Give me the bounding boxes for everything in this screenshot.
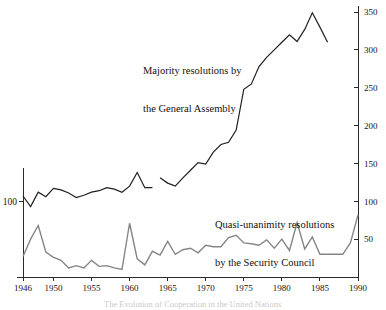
- x-tick-label: 1950: [44, 283, 63, 293]
- x-tick-label: 1970: [197, 283, 216, 293]
- x-tick-label: 1990: [349, 283, 368, 293]
- annotation-majority-line2: the General Assembly: [143, 103, 242, 116]
- x-tick-label: 1955: [83, 283, 102, 293]
- annotation-quasi-line2: by the Security Council: [215, 257, 334, 270]
- y-tick-label-right: 300: [364, 45, 378, 55]
- annotation-majority: Majority resolutions by the General Asse…: [143, 40, 242, 140]
- y-tick-label-right: 150: [364, 159, 378, 169]
- y-tick-label-right: 200: [364, 121, 378, 131]
- x-tick-label: 1965: [159, 283, 178, 293]
- y-tick-label-left: 100: [3, 197, 18, 207]
- annotation-majority-line1: Majority resolutions by: [143, 65, 242, 78]
- y-tick-label-right: 250: [364, 83, 378, 93]
- y-tick-label-right: 50: [364, 234, 374, 244]
- annotation-quasi-line1: Quasi-unanimity resolutions: [215, 219, 334, 232]
- footer-caption: The Evolution of Cooperation in the Unit…: [104, 301, 281, 309]
- x-tick-label: 1946: [14, 283, 33, 293]
- y-tick-label-right: 350: [364, 7, 378, 17]
- footer-strip: The Evolution of Cooperation in the Unit…: [0, 301, 386, 310]
- annotation-quasi: Quasi-unanimity resolutions by the Secur…: [215, 194, 334, 294]
- chart-container: 1946195019551960196519701975198019851990…: [0, 0, 386, 310]
- x-tick-label: 1960: [121, 283, 140, 293]
- y-tick-label-right: 100: [364, 197, 378, 207]
